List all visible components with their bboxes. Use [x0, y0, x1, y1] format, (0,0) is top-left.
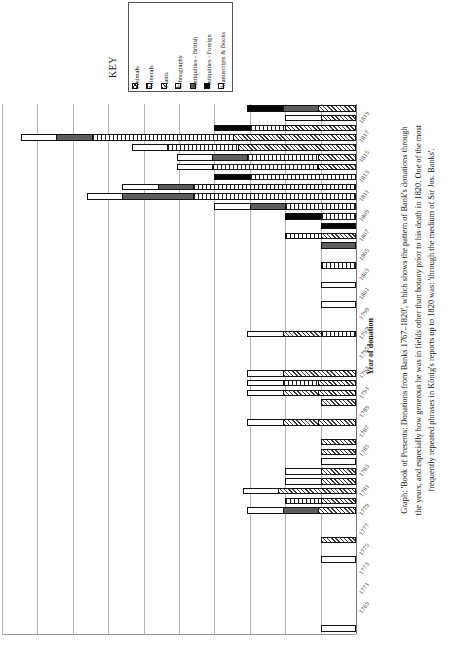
- bar-row-1775[interactable]: [2, 547, 356, 554]
- bar-segment-manuscripts-books[interactable]: [247, 380, 282, 387]
- bar-segment-antiquities-foreign[interactable]: [214, 125, 249, 132]
- bar-segment-plants[interactable]: [321, 399, 356, 406]
- bar-segment-manuscripts-books[interactable]: [122, 184, 157, 191]
- bar-row-1790[interactable]: [2, 399, 356, 406]
- bar-segment-manuscripts-books[interactable]: [132, 144, 167, 151]
- bar-row-1795[interactable]: [2, 350, 356, 357]
- bar-row-1811[interactable]: [2, 193, 356, 200]
- bar-segment-plants[interactable]: [318, 154, 356, 161]
- bar-segment-minerals[interactable]: [321, 331, 356, 338]
- bar-segment-minerals[interactable]: [283, 380, 318, 387]
- bar-segment-minerals[interactable]: [250, 125, 285, 132]
- bar-segment-manuscripts-books[interactable]: [321, 458, 356, 465]
- bar-segment-antiquities-foreign[interactable]: [214, 174, 249, 181]
- bar-row-1806[interactable]: [2, 242, 356, 249]
- legend-item-7[interactable]: Manuscripts & Books: [218, 3, 231, 89]
- bar-row-1807[interactable]: [2, 233, 356, 240]
- bar-row-1802[interactable]: [2, 282, 356, 289]
- bar-segment-plants[interactable]: [283, 370, 356, 377]
- bar-row-1804[interactable]: [2, 262, 356, 269]
- bar-row-1781[interactable]: [2, 488, 356, 495]
- bar-segment-antiquities-foreign[interactable]: [285, 213, 320, 220]
- bar-segment-manuscripts-books[interactable]: [321, 282, 356, 289]
- bar-segment-plants[interactable]: [283, 331, 321, 338]
- bar-segment-plants[interactable]: [321, 468, 356, 475]
- bar-segment-manuscripts-books[interactable]: [321, 556, 356, 563]
- bar-row-1789[interactable]: [2, 409, 356, 416]
- bar-segment-minerals[interactable]: [193, 184, 356, 191]
- legend-item-6[interactable]: Antiquities - Foreign: [204, 3, 217, 89]
- bar-row-1799[interactable]: [2, 311, 356, 318]
- bar-segment-plants[interactable]: [238, 144, 356, 151]
- bar-segment-minerals[interactable]: [285, 203, 356, 210]
- bar-row-1810[interactable]: [2, 203, 356, 210]
- bar-segment-manuscripts-books[interactable]: [247, 331, 282, 338]
- bar-row-1767[interactable]: [2, 625, 356, 632]
- bar-segment-manuscripts-books[interactable]: [177, 154, 212, 161]
- bar-segment-plants[interactable]: [321, 537, 356, 544]
- bar-row-1770[interactable]: [2, 596, 356, 603]
- bar-segment-plants[interactable]: [321, 439, 356, 446]
- bar-row-1812[interactable]: [2, 184, 356, 191]
- bar-segment-manuscripts-books[interactable]: [87, 193, 122, 200]
- bar-segment-manuscripts-books[interactable]: [321, 625, 356, 632]
- bar-row-1791[interactable]: [2, 390, 356, 397]
- legend-item-2[interactable]: Minerals: [146, 3, 159, 89]
- bar-segment-manuscripts-books[interactable]: [285, 478, 320, 485]
- bar-segment-plants[interactable]: [321, 478, 356, 485]
- legend-item-3[interactable]: Plants: [161, 3, 174, 89]
- bar-segment-manuscripts-books[interactable]: [285, 468, 320, 475]
- bar-segment-minerals[interactable]: [285, 233, 320, 240]
- bar-row-1805[interactable]: [2, 252, 356, 259]
- bar-row-1785[interactable]: [2, 449, 356, 456]
- bar-row-1803[interactable]: [2, 272, 356, 279]
- bar-segment-minerals[interactable]: [167, 144, 238, 151]
- bar-segment-plants[interactable]: [321, 498, 356, 505]
- bar-row-1793[interactable]: [2, 370, 356, 377]
- bar-segment-manuscripts-books[interactable]: [177, 164, 212, 171]
- bar-row-1778[interactable]: [2, 517, 356, 524]
- legend-item-1[interactable]: Animals: [132, 3, 145, 89]
- bar-segment-plants[interactable]: [285, 125, 356, 132]
- bar-segment-plants[interactable]: [278, 488, 356, 495]
- bar-segment-antiquities-british[interactable]: [122, 193, 193, 200]
- bar-segment-antiquities-british[interactable]: [250, 203, 285, 210]
- bar-row-1796[interactable]: [2, 341, 356, 348]
- bar-segment-plants[interactable]: [321, 115, 356, 122]
- bar-row-1772[interactable]: [2, 576, 356, 583]
- bar-segment-minerals[interactable]: [193, 193, 356, 200]
- bar-row-1768[interactable]: [2, 615, 356, 622]
- bar-segment-plants[interactable]: [318, 105, 356, 112]
- bar-row-1792[interactable]: [2, 380, 356, 387]
- bar-row-1783[interactable]: [2, 468, 356, 475]
- bar-segment-antiquities-british[interactable]: [283, 105, 318, 112]
- bar-segment-antiquities-british[interactable]: [283, 507, 318, 514]
- bar-row-1776[interactable]: [2, 537, 356, 544]
- bar-segment-minerals[interactable]: [247, 154, 318, 161]
- bar-row-1774[interactable]: [2, 556, 356, 563]
- bar-row-1794[interactable]: [2, 360, 356, 367]
- bar-row-1786[interactable]: [2, 439, 356, 446]
- bar-segment-antiquities-british[interactable]: [212, 154, 247, 161]
- bar-segment-plants[interactable]: [283, 419, 318, 426]
- bar-segment-minerals[interactable]: [285, 498, 320, 505]
- bar-row-1779[interactable]: [2, 507, 356, 514]
- bar-row-1813[interactable]: [2, 174, 356, 181]
- bar-segment-plants[interactable]: [318, 164, 356, 171]
- bar-row-1771[interactable]: [2, 586, 356, 593]
- bar-row-1814[interactable]: [2, 164, 356, 171]
- bar-segment-plants[interactable]: [318, 507, 356, 514]
- bar-row-1800[interactable]: [2, 301, 356, 308]
- bar-segment-plants[interactable]: [283, 390, 318, 397]
- bar-segment-plants[interactable]: [318, 380, 356, 387]
- bar-row-1816[interactable]: [2, 144, 356, 151]
- bar-row-1782[interactable]: [2, 478, 356, 485]
- bar-row-1797[interactable]: [2, 331, 356, 338]
- bar-segment-antiquities-british[interactable]: [56, 134, 91, 141]
- bar-row-1784[interactable]: [2, 458, 356, 465]
- bar-segment-manuscripts-books[interactable]: [321, 301, 356, 308]
- bar-segment-plants[interactable]: [321, 233, 356, 240]
- bar-segment-manuscripts-books[interactable]: [247, 507, 282, 514]
- bar-segment-plants[interactable]: [318, 419, 356, 426]
- bar-segment-antiquities-british[interactable]: [321, 242, 356, 249]
